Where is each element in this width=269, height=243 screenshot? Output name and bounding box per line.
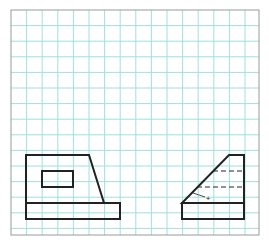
base-block [182,203,244,219]
grid-paper [11,10,259,235]
point-marker: + [206,194,211,203]
projection-views: + [26,155,244,219]
outline [26,155,104,203]
outline [182,155,244,203]
side-view: + [182,155,244,219]
drawing-canvas: + [0,0,269,243]
leader-line [193,193,205,197]
sheet-border [11,10,259,235]
